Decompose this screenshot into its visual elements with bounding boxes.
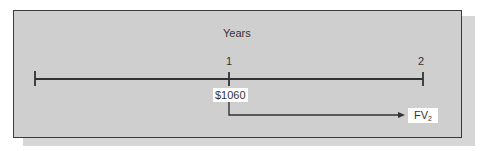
future-value-main: FV [414, 109, 428, 121]
timeline-diagram [0, 0, 483, 151]
years-label: Years [223, 28, 251, 39]
period-label-2: 2 [418, 56, 424, 67]
future-value-label: FV2 [408, 108, 438, 123]
future-value-subscript: 2 [428, 115, 432, 122]
period-label-1: 1 [226, 56, 232, 67]
arrow-head-icon [398, 112, 405, 118]
cash-flow-value: $1060 [213, 88, 248, 102]
compounding-arrow-line [229, 101, 398, 115]
